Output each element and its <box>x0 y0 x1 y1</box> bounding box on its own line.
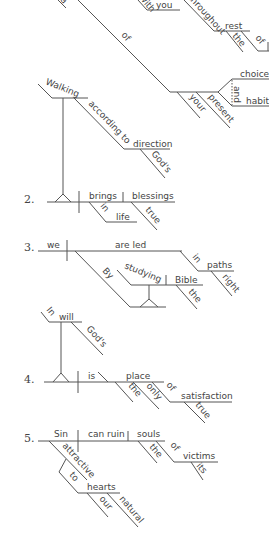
word-the: the <box>147 442 164 460</box>
word-victims: victims <box>183 451 216 461</box>
word-direction: direction <box>133 139 172 149</box>
word-we: we <box>47 240 60 250</box>
word-only: only <box>144 381 164 403</box>
diagram-number: 2. <box>24 193 35 206</box>
word-souls: souls <box>137 429 160 439</box>
word-in: in <box>98 201 111 214</box>
word-will: will <box>59 312 74 322</box>
word-paths: paths <box>207 260 232 270</box>
word-of: of <box>168 440 182 454</box>
word-in: in <box>190 252 203 265</box>
diagram-number: 3. <box>24 241 35 254</box>
word-gods: God's <box>149 149 173 175</box>
word-right: right <box>220 272 242 295</box>
word-of: of <box>164 380 178 394</box>
word-choices: choices <box>240 69 269 79</box>
word-our: our <box>97 494 114 512</box>
word-are-led: are led <box>115 240 146 250</box>
word-gods: God's <box>85 324 110 350</box>
word-true: true <box>143 205 163 226</box>
word-true: true <box>193 400 213 421</box>
word-life: life <box>116 212 130 222</box>
diagram-2: 2. brings blessings in life true <box>24 188 175 230</box>
word-the: the <box>230 31 247 49</box>
word-studying: studying <box>123 261 163 285</box>
diagram-1: a of with you throughout rest the of you… <box>38 0 269 188</box>
word-according-to: according to <box>87 98 133 146</box>
word-rest: rest <box>225 21 243 31</box>
diagram-number: 4. <box>24 373 35 386</box>
word-you: you <box>156 0 173 10</box>
word-is: is <box>88 371 96 381</box>
sentence-diagrams: a of with you throughout rest the of you… <box>0 0 269 549</box>
word-of-2: of <box>253 33 267 47</box>
word-its: its <box>194 461 209 476</box>
word-satisfaction: satisfaction <box>181 391 233 401</box>
word-in: In <box>44 305 57 318</box>
word-can-ruin: can ruin <box>88 429 125 439</box>
word-sin: Sin <box>54 429 68 439</box>
word-habits: habits <box>246 96 269 106</box>
word-brings: brings <box>89 191 117 201</box>
word-hearts: hearts <box>87 482 116 492</box>
diagram-3: 3. we are led in paths right By studying… <box>24 240 242 309</box>
diagram-4: In will God's 4. is place the only of sa… <box>24 305 233 423</box>
word-of: of <box>119 30 133 44</box>
word-and: and <box>232 86 242 103</box>
word-bible: Bible <box>175 275 198 285</box>
diagram-number: 5. <box>24 432 35 445</box>
diagram-5: 5. Sin can ruin souls the of victims its… <box>24 429 218 527</box>
word-place: place <box>126 371 151 381</box>
word-the: the <box>186 287 203 305</box>
word-blessings: blessings <box>132 191 174 201</box>
word-a: a <box>58 0 69 6</box>
word-your: your <box>187 92 208 114</box>
word-with: with <box>137 0 157 14</box>
